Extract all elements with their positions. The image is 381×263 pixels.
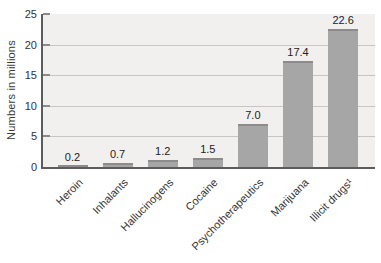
y-tick-label: 0 — [0, 161, 37, 173]
bar-value-label: 17.4 — [287, 46, 308, 58]
gridline — [43, 136, 375, 137]
bar-chart: Numbers in millions 0510152025 0.20.71.2… — [0, 0, 381, 263]
gridline — [43, 45, 375, 46]
y-axis-title: Numbers in millions — [5, 40, 17, 140]
y-tick-label: 10 — [0, 100, 37, 112]
y-tick-label: 25 — [0, 8, 37, 20]
x-category-label: Cocaine — [183, 176, 220, 213]
bar — [238, 124, 268, 167]
x-category-label: Illicit drugs¹ — [308, 176, 356, 224]
x-category-label: Heroin — [54, 176, 85, 207]
bar-value-label: 1.2 — [155, 145, 170, 157]
bar-value-label: 1.5 — [200, 143, 215, 155]
y-tick-mark — [43, 13, 50, 15]
y-tick-label: 5 — [0, 130, 37, 142]
x-category-label: Inhalants — [90, 176, 130, 216]
bar — [283, 61, 313, 167]
bar — [328, 29, 358, 167]
bar — [193, 158, 223, 167]
bar-value-label: 7.0 — [245, 109, 260, 121]
y-tick-label: 20 — [0, 39, 37, 51]
y-tick-label: 15 — [0, 69, 37, 81]
y-tick-mark — [43, 44, 50, 46]
bar-value-label: 0.2 — [65, 151, 80, 163]
x-category-label: Marijuana — [268, 176, 311, 219]
gridline — [43, 75, 375, 76]
gridline — [43, 106, 375, 107]
y-tick-mark — [43, 135, 50, 137]
bar-value-label: 22.6 — [332, 14, 353, 26]
bar — [148, 160, 178, 167]
y-tick-mark — [43, 105, 50, 107]
bar — [103, 163, 133, 167]
bar-value-label: 0.7 — [110, 148, 125, 160]
y-tick-mark — [43, 74, 50, 76]
bar — [58, 165, 88, 167]
